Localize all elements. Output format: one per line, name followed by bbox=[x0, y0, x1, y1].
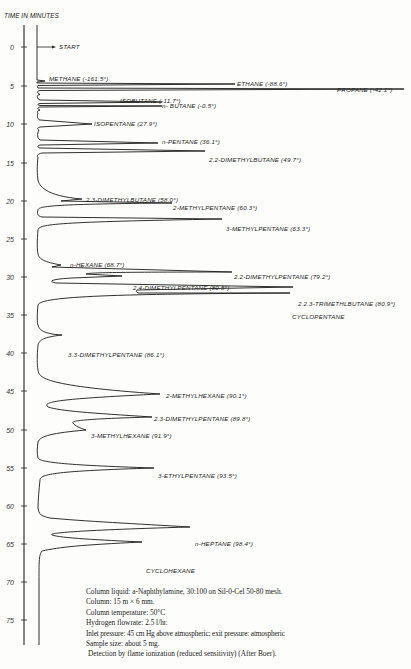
label-2-methylpentane: 2-METHYLPENTANE (60.3°) bbox=[172, 204, 257, 211]
start-marker: START bbox=[37, 43, 81, 50]
label-cyclopentane: CYCLOPENTANE bbox=[292, 313, 345, 320]
label-22-dimethylpentane: 2.2-DIMETHYLPENTANE (79.2°) bbox=[233, 273, 330, 280]
label-24-dimethylpentane: 2.4-DIMETHYLPENTANE (80.5°) bbox=[132, 284, 229, 291]
label-n-butane: n- BUTANE (-0.5°) bbox=[162, 102, 216, 109]
svg-text:30: 30 bbox=[6, 274, 14, 281]
label-n-heptane: n-HEPTANE (98.4°) bbox=[195, 540, 253, 547]
svg-text:65: 65 bbox=[6, 541, 14, 548]
note-hydrogen-flowrate: Hydrogen flowrate: 2.5 l/hr. bbox=[86, 618, 411, 628]
svg-text:50: 50 bbox=[6, 427, 14, 434]
note-column-liquid: Column liquid: a-Naphthylamine, 30:100 o… bbox=[86, 587, 411, 597]
svg-text:START: START bbox=[59, 43, 81, 50]
note-detection: Detection by flame ionization (reduced s… bbox=[86, 649, 411, 659]
label-2-methylhexane: 2-METHYLHEXANE (90.1°) bbox=[165, 392, 247, 399]
experimental-conditions: Column liquid: a-Naphthylamine, 30:100 o… bbox=[86, 587, 411, 660]
peak-labels: METHANE (-161.5°) ETHANE (-88.6°) PROPAN… bbox=[49, 75, 395, 574]
label-ethane: ETHANE (-88.6°) bbox=[237, 80, 288, 87]
svg-text:75: 75 bbox=[6, 617, 14, 624]
label-3-methylhexane: 3-METHYLHEXANE (91.9°) bbox=[91, 432, 172, 439]
svg-text:70: 70 bbox=[6, 579, 14, 586]
label-cyclohexane: CYCLOHEXANE bbox=[146, 567, 196, 574]
note-column: Column: 15 m × 6 mm. bbox=[86, 597, 411, 607]
svg-text:35: 35 bbox=[6, 312, 14, 319]
svg-text:5: 5 bbox=[10, 83, 14, 90]
svg-text:45: 45 bbox=[6, 388, 14, 395]
svg-text:40: 40 bbox=[6, 350, 14, 357]
svg-text:20: 20 bbox=[5, 198, 14, 205]
label-23-dimethylbutane: 2.3-DIMETHYLBUTANE (58.0°) bbox=[85, 196, 178, 203]
svg-text:25: 25 bbox=[5, 236, 14, 243]
chromatogram-trace bbox=[37, 25, 404, 645]
label-33-dimethylpentane: 3.3-DIMETHYLPENTANE (86.1°) bbox=[68, 351, 164, 358]
label-propane: PROPANE (-42.1°) bbox=[337, 86, 392, 93]
tick-labels: 0 5 10 15 20 25 30 35 40 45 50 55 60 65 … bbox=[5, 44, 14, 624]
label-3-ethylpentane: 3-ETHYLPENTANE (93.5°) bbox=[158, 472, 237, 479]
note-sample-size: Sample size: about 5 mg. bbox=[86, 639, 411, 649]
note-column-temperature: Column temperature: 50°C bbox=[86, 608, 411, 618]
chromatogram-chart: TIME IN MINUTES 0 5 10 15 20 25 30 35 40… bbox=[0, 0, 411, 669]
label-n-pentane: n-PENTANE (36.1°) bbox=[162, 138, 220, 145]
svg-text:55: 55 bbox=[6, 465, 14, 472]
svg-text:15: 15 bbox=[6, 160, 14, 167]
label-n-hexane: n-HEXANE (68.7°) bbox=[70, 261, 125, 268]
label-23-dimethylpentane: 2.3-DIMETHYLPENTANE (89.8°) bbox=[153, 415, 250, 422]
svg-text:60: 60 bbox=[6, 503, 14, 510]
note-inlet-pressure: Inlet pressure: 45 cm Hg above atmospher… bbox=[86, 629, 411, 639]
label-methane: METHANE (-161.5°) bbox=[49, 75, 109, 82]
svg-text:10: 10 bbox=[6, 121, 14, 128]
svg-text:0: 0 bbox=[10, 44, 14, 51]
label-223-trimethlbutane: 2.2.3-TRIMETHLBUTANE (80.9°) bbox=[297, 300, 395, 307]
label-3-methylpentane: 3-METHYLPENTANE (63.3°) bbox=[226, 225, 310, 232]
label-isopentane: ISOPENTANE (27.9°) bbox=[94, 120, 157, 127]
label-22-dimethylbutane: 2.2-DIMETHYLBUTANE (49.7°) bbox=[208, 156, 301, 163]
axis-title: TIME IN MINUTES bbox=[4, 12, 60, 19]
